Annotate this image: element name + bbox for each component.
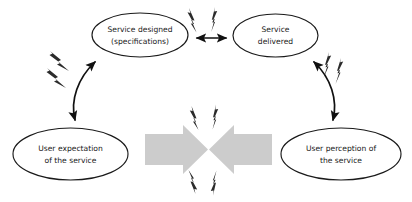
node-label-line2: (specifications)	[111, 37, 169, 46]
lightning-bolt-icon	[213, 105, 219, 130]
central-clash-arrows	[145, 125, 272, 174]
node-label-line2: the service	[320, 156, 362, 165]
node-label-line1: Service	[261, 25, 289, 34]
connector-delivered-perception	[314, 62, 335, 120]
clash-arrow-left	[145, 125, 208, 174]
ellipse-shape	[233, 14, 318, 57]
ellipse-shape	[92, 13, 188, 57]
double-headed-curved-arrow	[314, 62, 335, 120]
node-label-line1: User perception of	[306, 144, 376, 153]
lightning-bolt-icon	[47, 68, 67, 88]
ellipse-shape	[13, 128, 128, 180]
node-label-line1: User expectation	[38, 144, 103, 153]
lightning-bolt-icon	[189, 170, 198, 194]
bolts-top-center	[188, 7, 218, 33]
lightning-bolt-icon	[188, 8, 197, 33]
clash-arrow-right	[209, 125, 272, 174]
bolts-clash-top	[190, 105, 218, 131]
node-service-delivered[interactable]: Service delivered	[233, 14, 318, 57]
lightning-bolt-icon	[336, 58, 344, 84]
connector-expectation-designed	[74, 62, 95, 120]
lightning-bolt-icon	[211, 7, 217, 32]
double-headed-curved-arrow	[74, 62, 95, 120]
node-label-line2: delivered	[258, 37, 294, 46]
ellipse-shape	[281, 128, 401, 180]
node-label-line1: Service designed	[107, 25, 172, 34]
lightning-bolt-icon	[211, 171, 217, 196]
lightning-bolt-icon	[190, 106, 199, 130]
bolts-left	[47, 51, 70, 88]
node-user-perception[interactable]: User perception of the service	[281, 128, 401, 180]
node-label-line2: of the service	[45, 156, 97, 165]
node-user-expectation[interactable]: User expectation of the service	[13, 128, 128, 180]
node-service-designed[interactable]: Service designed (specifications)	[92, 13, 188, 57]
bolts-clash-bottom	[189, 170, 217, 196]
diagram-canvas: Service designed (specifications) Servic…	[0, 0, 412, 202]
lightning-bolt-icon	[50, 51, 70, 71]
service-gap-diagram: Service designed (specifications) Servic…	[0, 0, 412, 202]
